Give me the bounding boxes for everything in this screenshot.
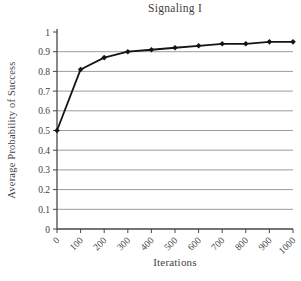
y-tick-label: 0.3 <box>38 165 50 175</box>
x-tick-label: 500 <box>162 235 179 252</box>
x-tick-label: 800 <box>233 235 250 252</box>
x-tick-label: 300 <box>115 235 132 252</box>
x-tick-label: 1000 <box>277 235 298 256</box>
y-tick-label: 0.5 <box>38 126 50 136</box>
y-tick-label: 0.6 <box>38 106 50 116</box>
data-point-marker <box>125 49 131 55</box>
x-tick-label: 200 <box>91 235 108 252</box>
data-point-marker <box>290 39 296 45</box>
x-axis-title: Iterations <box>57 256 293 268</box>
y-tick-label: 0.8 <box>38 67 50 77</box>
y-tick-label: 1 <box>45 28 50 38</box>
plot-area: 00.10.20.30.40.50.60.70.80.9101002003004… <box>0 0 301 281</box>
y-tick-label: 0.4 <box>38 146 50 156</box>
y-tick-label: 0.1 <box>38 205 50 215</box>
data-point-marker <box>172 45 178 51</box>
data-point-marker <box>196 43 202 49</box>
y-tick-label: 0.7 <box>38 87 50 97</box>
x-tick-label: 900 <box>257 235 274 252</box>
data-series-line <box>57 42 293 131</box>
x-tick-label: 700 <box>209 235 226 252</box>
y-tick-label: 0.2 <box>38 185 50 195</box>
x-tick-label: 0 <box>51 235 62 246</box>
data-point-marker <box>54 128 60 134</box>
chart-figure: Signaling I Average Probability of Succe… <box>0 0 301 281</box>
x-tick-label: 400 <box>139 235 156 252</box>
data-point-marker <box>219 41 225 47</box>
data-point-marker <box>243 41 249 47</box>
y-tick-label: 0.9 <box>38 47 50 57</box>
x-tick-label: 100 <box>68 235 85 252</box>
x-tick-label: 600 <box>186 235 203 252</box>
data-point-marker <box>267 39 273 45</box>
y-tick-label: 0 <box>45 225 50 235</box>
